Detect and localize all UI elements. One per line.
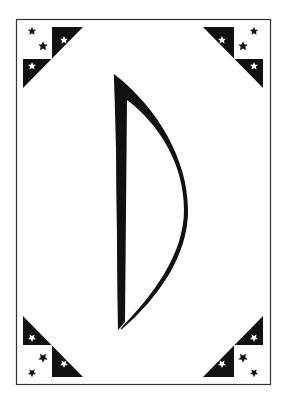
card-art: [0, 0, 286, 399]
corner-bottom-left: [23, 316, 83, 377]
corner-bottom-right: [203, 316, 263, 377]
bow-icon: [114, 74, 188, 330]
corner-top-right: [203, 27, 263, 88]
card: [0, 0, 286, 399]
corner-top-left: [23, 27, 83, 88]
card-border: [17, 20, 271, 385]
